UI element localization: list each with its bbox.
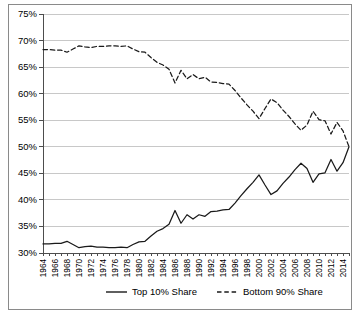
- x-tick-label: 1982: [147, 259, 156, 278]
- y-tick-label: 45%: [18, 167, 38, 178]
- y-tick-label: 75%: [18, 8, 38, 19]
- x-tick-label: 2000: [255, 259, 264, 278]
- x-tick-label: 2004: [279, 259, 288, 278]
- x-tick-label: 2002: [267, 259, 276, 278]
- x-tick-label: 1970: [75, 259, 84, 278]
- x-tick-label: 1994: [219, 259, 228, 278]
- x-tick-label: 1990: [195, 259, 204, 278]
- y-tick-label: 30%: [18, 247, 38, 258]
- line-chart: 30%35%40%45%50%55%60%65%70%75% 196419661…: [9, 5, 353, 311]
- x-tick-label: 1998: [243, 259, 252, 278]
- legend-label-0: Top 10% Share: [132, 286, 197, 297]
- x-tick-label: 2008: [303, 259, 312, 278]
- x-tick-label: 1986: [171, 259, 180, 278]
- x-tick-label: 1974: [99, 259, 108, 278]
- x-tick-label: 1968: [63, 259, 72, 278]
- y-tick-label: 70%: [18, 35, 38, 46]
- x-tick-label: 2014: [339, 259, 348, 278]
- x-tick-label: 1992: [207, 259, 216, 278]
- x-tick-label: 2010: [315, 259, 324, 278]
- chart-container: 30%35%40%45%50%55%60%65%70%75% 196419661…: [8, 4, 352, 310]
- x-tick-label: 1984: [159, 259, 168, 278]
- chart-legend: Top 10% ShareBottom 90% Share: [106, 286, 323, 297]
- x-axis: 1964196619681970197219741976197819801982…: [39, 253, 349, 277]
- series-line-0: [43, 147, 349, 248]
- y-tick-label: 55%: [18, 114, 38, 125]
- x-tick-label: 1964: [39, 259, 48, 278]
- y-tick-label: 60%: [18, 88, 38, 99]
- gridlines: [43, 14, 349, 226]
- x-tick-label: 1980: [135, 259, 144, 278]
- x-tick-label: 1988: [183, 259, 192, 278]
- x-tick-label: 1976: [111, 259, 120, 278]
- x-tick-label: 1996: [231, 259, 240, 278]
- y-axis: 30%35%40%45%50%55%60%65%70%75%: [18, 8, 43, 258]
- x-tick-label: 1966: [51, 259, 60, 278]
- y-tick-label: 65%: [18, 61, 38, 72]
- y-tick-label: 35%: [18, 220, 38, 231]
- x-tick-label: 1978: [123, 259, 132, 278]
- series-line-1: [43, 46, 349, 147]
- x-tick-label: 2006: [291, 259, 300, 278]
- y-tick-label: 40%: [18, 194, 38, 205]
- x-tick-label: 1972: [87, 259, 96, 278]
- x-tick-label: 2012: [327, 259, 336, 278]
- legend-label-1: Bottom 90% Share: [243, 286, 323, 297]
- y-tick-label: 50%: [18, 141, 38, 152]
